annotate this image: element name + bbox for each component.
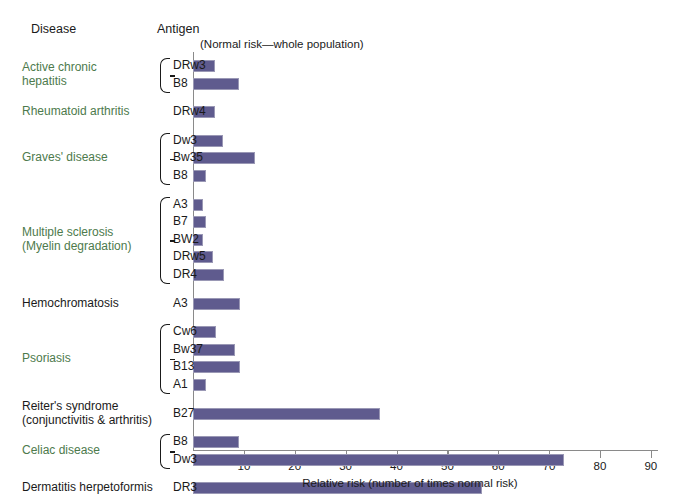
antigen-label: A1 bbox=[173, 377, 188, 391]
bar bbox=[193, 379, 206, 391]
disease-label: Multiple sclerosis(Myelin degradation) bbox=[22, 225, 131, 253]
disease-label: Psoriasis bbox=[22, 351, 71, 365]
normal-risk-annotation: (Normal risk—whole population) bbox=[200, 38, 364, 50]
disease-label-line: (conjunctivitis & arthritis) bbox=[22, 413, 152, 427]
antigen-label: B8 bbox=[173, 434, 188, 448]
antigen-group-brace bbox=[160, 324, 170, 394]
x-axis-line bbox=[193, 450, 658, 451]
bar bbox=[193, 199, 203, 211]
bar bbox=[193, 408, 380, 420]
antigen-label: BW2 bbox=[173, 232, 199, 246]
bar bbox=[193, 78, 239, 90]
disease-label-line: Rheumatoid arthritis bbox=[22, 104, 129, 118]
x-tick-label: 90 bbox=[644, 460, 657, 472]
column-header-disease: Disease bbox=[31, 22, 76, 36]
disease-label-line: Hemochromatosis bbox=[22, 296, 119, 310]
antigen-label: DRw4 bbox=[173, 104, 206, 118]
column-header-antigen: Antigen bbox=[157, 22, 199, 36]
antigen-label: DRw3 bbox=[173, 58, 206, 72]
antigen-label: A3 bbox=[173, 197, 188, 211]
x-axis-title-text: Relative risk (number of times normal ri… bbox=[302, 477, 517, 489]
bar bbox=[193, 269, 224, 281]
bar bbox=[193, 135, 223, 147]
disease-label: Reiter's syndrome(conjunctivitis & arthr… bbox=[22, 399, 152, 427]
antigen-label: Bw37 bbox=[173, 342, 203, 356]
bar bbox=[193, 436, 239, 448]
disease-label: Active chronichepatitis bbox=[22, 60, 97, 88]
antigen-label: B27 bbox=[173, 406, 194, 420]
antigen-label: Dw3 bbox=[173, 452, 197, 466]
disease-label: Hemochromatosis bbox=[22, 296, 119, 310]
disease-label-line: Psoriasis bbox=[22, 351, 71, 365]
antigen-label: DRw5 bbox=[173, 249, 206, 263]
antigen-group-brace bbox=[160, 197, 170, 284]
antigen-label: B13 bbox=[173, 359, 194, 373]
antigen-label: B8 bbox=[173, 168, 188, 182]
relative-risk-chart: Disease Antigen (Normal risk—whole popul… bbox=[0, 0, 690, 495]
x-axis-title: Relative risk (number of times normal ri… bbox=[0, 477, 690, 489]
disease-label: Celiac disease bbox=[22, 443, 100, 457]
antigen-label: Cw6 bbox=[173, 324, 197, 338]
antigen-label: Dw3 bbox=[173, 133, 197, 147]
antigen-label: B7 bbox=[173, 214, 188, 228]
disease-label: Graves' disease bbox=[22, 150, 108, 164]
antigen-label: DR4 bbox=[173, 267, 197, 281]
x-tick bbox=[651, 451, 652, 458]
antigen-group-brace bbox=[160, 58, 170, 93]
disease-label: Rheumatoid arthritis bbox=[22, 104, 129, 118]
disease-label-line: Celiac disease bbox=[22, 443, 100, 457]
disease-label-line: (Myelin degradation) bbox=[22, 239, 131, 253]
antigen-group-brace bbox=[160, 133, 170, 185]
antigen-group-brace bbox=[160, 434, 170, 469]
disease-label-line: Active chronic bbox=[22, 60, 97, 74]
antigen-label: Bw35 bbox=[173, 150, 203, 164]
x-tick-label: 80 bbox=[594, 460, 607, 472]
disease-label-line: Multiple sclerosis bbox=[22, 225, 131, 239]
antigen-label: A3 bbox=[173, 296, 188, 310]
antigen-label: B8 bbox=[173, 76, 188, 90]
bar bbox=[193, 361, 240, 373]
disease-label-line: hepatitis bbox=[22, 74, 97, 88]
bar bbox=[193, 454, 564, 466]
bar bbox=[193, 298, 240, 310]
bar bbox=[193, 216, 206, 228]
disease-label-line: Reiter's syndrome bbox=[22, 399, 152, 413]
bar bbox=[193, 170, 206, 182]
x-tick bbox=[600, 451, 601, 458]
disease-label-line: Graves' disease bbox=[22, 150, 108, 164]
